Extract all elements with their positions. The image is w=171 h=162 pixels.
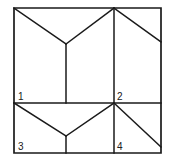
region-label-1: 1 xyxy=(18,91,24,102)
region-label-2: 2 xyxy=(117,91,123,102)
lower-right-diagonal xyxy=(66,103,114,136)
region-label-4: 4 xyxy=(117,141,123,152)
region-label-3: 3 xyxy=(18,141,24,152)
lower-left-diagonal xyxy=(14,103,66,136)
figure-segments-group xyxy=(14,8,161,153)
figure-container: 1234 xyxy=(0,0,171,162)
upper-right-diagonal xyxy=(66,8,114,44)
upper-far-right-diagonal xyxy=(114,8,161,42)
geometric-figure-svg: 1234 xyxy=(0,0,171,162)
figure-labels-group: 1234 xyxy=(18,91,123,152)
outer-square-border xyxy=(14,8,161,153)
upper-left-diagonal xyxy=(14,8,66,44)
